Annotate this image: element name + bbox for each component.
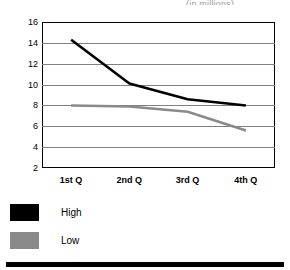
y-axis-tick-label: 12 [16, 60, 38, 69]
legend-item[interactable]: High [10, 202, 160, 223]
legend-swatch [10, 232, 39, 249]
y-axis-tick-label: 14 [16, 39, 38, 48]
legend-label: High [61, 208, 82, 218]
y-axis-tick-label: 6 [16, 122, 38, 131]
series-line-low [71, 105, 246, 130]
y-axis-tick-label: 16 [16, 18, 38, 27]
y-axis-tick-label: 2 [16, 164, 38, 173]
series-lines [42, 22, 275, 168]
y-axis-tick-label: 4 [16, 143, 38, 152]
line-chart: 161412108642 1st Q2nd Q3rd Q4th Q [0, 0, 290, 200]
chart-legend: HighLow [10, 202, 160, 258]
x-axis-tick-label: 3rd Q [158, 176, 218, 185]
x-axis-tick-label: 1st Q [41, 176, 101, 185]
legend-item[interactable]: Low [10, 230, 160, 251]
y-axis-tick-label: 8 [16, 101, 38, 110]
legend-label: Low [61, 236, 79, 246]
y-axis-tick-label: 10 [16, 81, 38, 90]
series-line-high [71, 40, 246, 106]
x-axis-tick-label: 4th Q [216, 176, 276, 185]
bottom-rule [6, 262, 284, 267]
x-axis-tick-label: 2nd Q [99, 176, 159, 185]
legend-swatch [10, 204, 39, 221]
